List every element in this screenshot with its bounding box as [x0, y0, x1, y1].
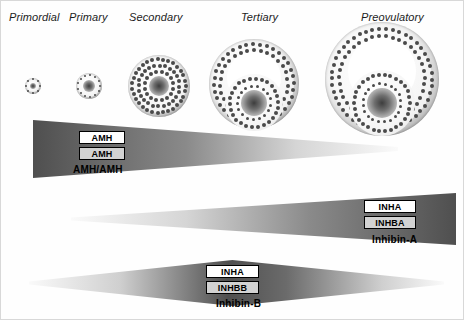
- inha-protein-tag-b: INHA: [206, 265, 259, 278]
- granulosa-cell: [362, 104, 365, 107]
- granulosa-cell: [233, 86, 237, 90]
- oocyte: [83, 80, 95, 92]
- granulosa-cell: [409, 45, 413, 49]
- granulosa-cell: [27, 90, 29, 92]
- granulosa-cell: [229, 108, 233, 112]
- granulosa-cell: [134, 97, 138, 101]
- granulosa-cell: [32, 92, 34, 94]
- granulosa-cell: [259, 49, 263, 53]
- stage-label-primary: Primary: [69, 11, 108, 23]
- granulosa-cell: [339, 89, 343, 93]
- granulosa-cell: [415, 41, 419, 45]
- secondary-follicle: [128, 55, 190, 117]
- granulosa-cell: [415, 102, 419, 106]
- granulosa-cell: [332, 63, 336, 67]
- granulosa-cell: [423, 104, 427, 108]
- granulosa-cell: [134, 71, 138, 75]
- granulosa-cell: [286, 84, 290, 88]
- granulosa-cell: [273, 89, 277, 93]
- granulosa-cell: [158, 64, 162, 68]
- oocyte: [367, 88, 397, 118]
- granulosa-cell: [292, 81, 296, 85]
- granulosa-cell: [160, 70, 164, 74]
- primary-follicle: [76, 73, 102, 99]
- granulosa-cell: [383, 73, 387, 77]
- granulosa-cell: [338, 82, 342, 86]
- granulosa-cell: [399, 122, 403, 126]
- granulosa-cell: [145, 92, 149, 96]
- granulosa-cell: [408, 101, 412, 105]
- granulosa-cell: [156, 111, 160, 115]
- granulosa-cell: [391, 28, 395, 32]
- granulosa-cell: [149, 96, 153, 100]
- granulosa-cell: [397, 38, 401, 42]
- granulosa-cell: [231, 113, 235, 117]
- granulosa-cell: [230, 91, 234, 95]
- granulosa-cell: [342, 45, 346, 49]
- granulosa-cell: [430, 71, 434, 75]
- granulosa-cell: [161, 58, 165, 62]
- granulosa-cell: [277, 51, 281, 55]
- granulosa-cell: [377, 73, 381, 77]
- granulosa-cell: [245, 49, 249, 53]
- granulosa-cell: [266, 92, 269, 95]
- granulosa-cell: [240, 91, 243, 94]
- granulosa-cell: [140, 73, 144, 77]
- granulosa-cell: [269, 104, 272, 107]
- granulosa-cell: [330, 70, 334, 74]
- granulosa-cell: [265, 51, 269, 55]
- granulosa-cell: [132, 76, 136, 80]
- granulosa-cell: [422, 69, 426, 73]
- granulosa-cell: [171, 87, 175, 91]
- granulosa-cell: [262, 88, 265, 91]
- granulosa-cell: [218, 103, 222, 107]
- granulosa-cell: [141, 105, 145, 109]
- granulosa-cell: [142, 98, 146, 102]
- granulosa-cell: [353, 107, 357, 111]
- granulosa-cell: [357, 85, 361, 89]
- granulosa-cell: [353, 95, 357, 99]
- granulosa-cell: [291, 74, 295, 78]
- granulosa-cell: [283, 107, 287, 111]
- granulosa-cell: [37, 90, 39, 92]
- granulosa-cell: [213, 76, 217, 80]
- granulosa-cell: [258, 43, 262, 47]
- granulosa-cell: [347, 50, 351, 54]
- granulosa-cell: [238, 45, 242, 49]
- granulosa-cell: [423, 52, 427, 56]
- oocyte: [149, 76, 169, 96]
- granulosa-cell: [367, 115, 370, 118]
- granulosa-cell: [137, 67, 141, 71]
- granulosa-cell: [171, 107, 175, 111]
- granulosa-cell: [270, 84, 274, 88]
- granulosa-cell: [358, 32, 362, 36]
- granulosa-cell: [260, 78, 264, 82]
- granulosa-cell: [276, 106, 280, 110]
- granulosa-cell: [80, 78, 82, 80]
- oocyte: [241, 90, 267, 116]
- granulosa-cell: [363, 110, 366, 113]
- granulosa-cell: [248, 77, 252, 81]
- stage-label-preovulatory: Preovulatory: [361, 11, 424, 23]
- granulosa-cell: [151, 104, 155, 108]
- granulosa-cell: [406, 112, 410, 116]
- inhbb-gene-tag: INHBB: [206, 281, 259, 294]
- granulosa-cell: [352, 36, 356, 40]
- granulosa-cell: [417, 56, 421, 60]
- granulosa-cell: [162, 104, 166, 108]
- granulosa-cell: [281, 64, 285, 68]
- granulosa-cell: [287, 101, 291, 105]
- granulosa-cell: [160, 98, 164, 102]
- granulosa-cell: [141, 63, 145, 67]
- granulosa-cell: [397, 111, 400, 114]
- granulosa-cell: [403, 84, 407, 88]
- granulosa-cell: [171, 99, 175, 103]
- granulosa-cell: [394, 77, 398, 81]
- inhibin-a-bar-caption: Inhibin-A: [372, 234, 417, 245]
- granulosa-cell: [399, 80, 403, 84]
- granulosa-cell: [98, 80, 100, 82]
- inhibin-b-bar-caption: Inhibin-B: [216, 298, 261, 309]
- granulosa-cell: [384, 83, 387, 86]
- granulosa-cell: [282, 56, 286, 60]
- oocyte: [30, 83, 36, 89]
